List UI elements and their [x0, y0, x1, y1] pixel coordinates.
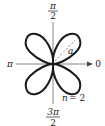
- label-zero: 0: [95, 59, 101, 69]
- petal-nw: [26, 34, 53, 64]
- label-3pi-over-2-num: 3π: [47, 107, 60, 117]
- label-3pi-over-2-den: 2: [50, 118, 56, 126]
- n-variable-label: n: [62, 93, 68, 103]
- polar-rose-diagram: a π 2 π 0 3π 2 n = 2: [0, 0, 105, 126]
- label-pi: π: [6, 59, 14, 69]
- petal-se: [53, 64, 80, 94]
- label-pi-over-2-num: π: [49, 1, 57, 11]
- petal-sw: [26, 64, 53, 94]
- arrow-right-icon: [87, 62, 93, 67]
- label-pi-over-2-den: 2: [50, 11, 56, 21]
- n-value-label: = 2: [69, 93, 85, 103]
- petal-length-label: a: [68, 46, 73, 56]
